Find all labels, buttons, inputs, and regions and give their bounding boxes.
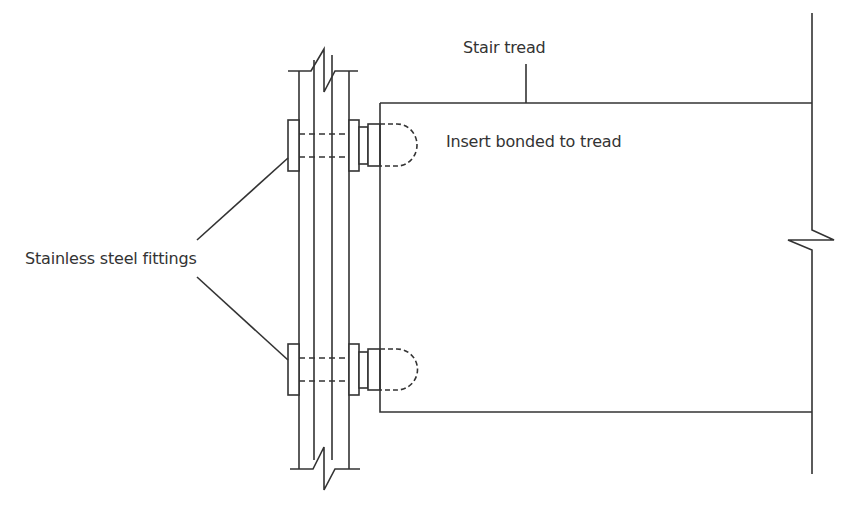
fitting-upper: [288, 120, 380, 171]
insert-upper: [380, 124, 417, 166]
stair-tread: [380, 13, 834, 474]
stringer-plates: [288, 49, 360, 490]
leader-fitting-lower: [197, 277, 288, 360]
label-fittings: Stainless steel fittings: [25, 249, 197, 268]
label-insert: Insert bonded to tread: [446, 132, 621, 151]
fitting-lower: [288, 344, 380, 395]
label-stair-tread: Stair tread: [463, 38, 545, 57]
leader-fitting-upper: [197, 158, 288, 240]
insert-lower: [380, 349, 417, 390]
